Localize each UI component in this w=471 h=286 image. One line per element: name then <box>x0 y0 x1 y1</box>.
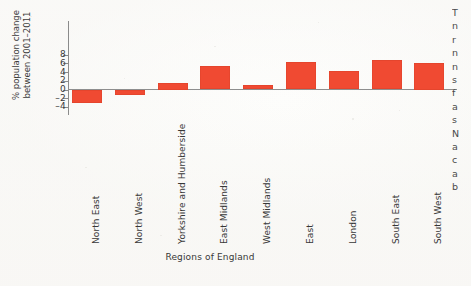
truncated-text-line: c <box>452 153 471 166</box>
bar-west-midlands <box>243 85 273 89</box>
x-axis-title: Regions of England <box>0 252 420 262</box>
bar-south-east <box>372 60 402 89</box>
truncated-text-line: b <box>452 180 471 193</box>
bar-north-east <box>72 90 102 103</box>
truncated-text-line: f <box>452 86 471 99</box>
truncated-text-line: T <box>452 6 471 19</box>
x-axis-label-south-east: South East <box>391 195 401 244</box>
x-axis-label-south-west: South West <box>433 192 443 244</box>
plot-area: 86420–2–4 % population change between 20… <box>0 0 471 286</box>
y-axis-tick-label: –4 <box>50 102 66 111</box>
bar-south-west <box>414 63 444 90</box>
x-axis-label-east: East <box>305 224 315 244</box>
y-axis-line <box>68 21 69 115</box>
x-axis-label-north-west: North West <box>134 193 144 244</box>
truncated-text-line: a <box>452 140 471 153</box>
bar-north-west <box>115 90 145 96</box>
truncated-text-line: a <box>452 167 471 180</box>
truncated-text-line: n <box>452 19 471 32</box>
x-axis-label-london: London <box>348 210 358 244</box>
y-axis-title-line-1: % population change <box>11 0 22 110</box>
x-axis-label-west-midlands: West Midlands <box>262 178 272 244</box>
bar-east <box>286 62 316 90</box>
truncated-text-line: s <box>452 113 471 126</box>
bar-east-midlands <box>200 66 230 89</box>
truncated-text-line: n <box>452 60 471 73</box>
chart-figure: 86420–2–4 % population change between 20… <box>0 0 471 286</box>
truncated-text-line: s <box>452 73 471 86</box>
truncated-text-line: N <box>452 127 471 140</box>
y-axis-title-line-2: between 2001–2011 <box>22 0 33 110</box>
x-axis-label-yorkshire-and-humberside: Yorkshire and Humberside <box>177 124 187 244</box>
truncated-text-line: r <box>452 33 471 46</box>
bar-yorkshire-and-humberside <box>158 83 188 90</box>
y-axis-tick-label-wrap: –4 <box>40 102 66 111</box>
truncated-text-line: n <box>452 46 471 59</box>
truncated-body-text-column: TnrnnsfasNacab <box>452 6 471 193</box>
bar-london <box>329 71 359 90</box>
x-axis-label-east-midlands: East Midlands <box>219 180 229 244</box>
y-axis-title: % population change between 2001–2011 <box>11 0 33 110</box>
truncated-text-line: a <box>452 100 471 113</box>
x-axis-label-north-east: North East <box>91 196 101 244</box>
